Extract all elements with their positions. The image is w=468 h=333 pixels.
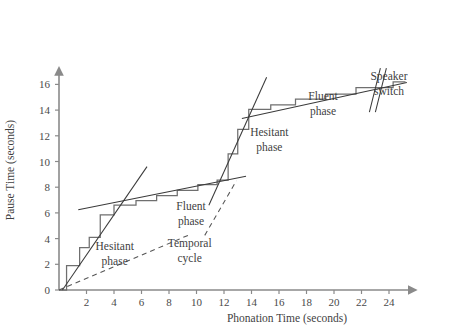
x-tick-label: 6 [139,296,145,308]
regression-line [78,176,246,209]
y-axis-title: Pause Time (seconds) [4,120,17,220]
temporal-cycle-line [205,181,237,236]
y-tick-label: 12 [39,130,50,142]
y-tick-label: 6 [45,207,51,219]
y-tick-label: 2 [45,258,51,270]
x-tick-label: 18 [301,296,313,308]
y-tick-label: 8 [45,181,51,193]
y-tick-label: 0 [45,284,51,296]
annotations-layer: HesitantphaseFluentphaseHesitantphaseFlu… [96,70,408,268]
annotation-temporal-cycle: Temporalcycle [168,237,212,265]
regression-line [62,167,147,290]
y-tick-label: 10 [39,156,51,168]
x-tick-label: 8 [166,296,172,308]
chart-container: 246810121416182022240246810121416 Hesita… [0,0,468,333]
x-tick-label: 22 [356,296,367,308]
x-tick-label: 24 [384,296,396,308]
y-tick-label: 4 [45,233,51,245]
phonation-pause-chart: 246810121416182022240246810121416 Hesita… [0,0,468,333]
y-tick-label: 16 [39,78,51,90]
annotation-fluent-phase-2: Fluentphase [308,90,338,118]
annotation-fluent-phase-1: Fluentphase [176,200,206,228]
x-tick-label: 16 [274,296,286,308]
y-tick-label: 14 [39,104,51,116]
x-tick-label: 12 [219,296,230,308]
x-tick-label: 2 [84,296,90,308]
annotation-hesitant-phase-1: Hesitantphase [96,240,135,268]
x-tick-label: 20 [329,296,341,308]
x-tick-label: 14 [246,296,258,308]
x-tick-label: 4 [111,296,117,308]
x-tick-label: 10 [191,296,203,308]
tick-labels-layer: 246810121416182022240246810121416 [39,78,395,308]
annotation-hesitant-phase-2: Hesitantphase [250,126,289,154]
x-axis-title: Phonation Time (seconds) [227,312,347,325]
